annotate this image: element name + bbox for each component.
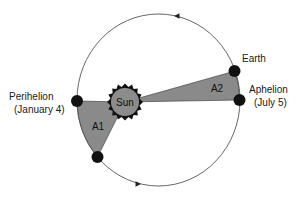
earth-aphelion-dot: [234, 94, 246, 106]
area-a2-label: A2: [211, 83, 224, 94]
sun-label: Sun: [116, 97, 134, 108]
earth-label: Earth: [242, 53, 266, 64]
kepler-orbit-diagram: Sun A1 A2 Earth Aphelion (July 5) Perihe…: [0, 0, 305, 199]
area-a1-label: A1: [92, 121, 105, 132]
earth-dot: [229, 65, 241, 77]
orbit-arrow-bottom-icon: [136, 181, 142, 187]
earth-after-perihelion-dot: [92, 151, 104, 163]
aphelion-label: Aphelion: [249, 84, 288, 95]
aphelion-date-label: (July 5): [254, 97, 287, 108]
earth-perihelion-dot: [71, 95, 83, 107]
perihelion-label: Perihelion: [9, 91, 53, 102]
perihelion-date-label: (January 4): [14, 104, 65, 115]
orbit-arrow-top-icon: [174, 13, 180, 19]
